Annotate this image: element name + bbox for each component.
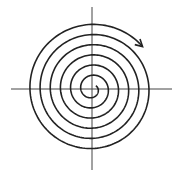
spiral-diagram: [0, 0, 179, 177]
spiral-svg: [0, 0, 179, 177]
axes: [11, 7, 172, 170]
spiral-curve: [30, 24, 149, 148]
